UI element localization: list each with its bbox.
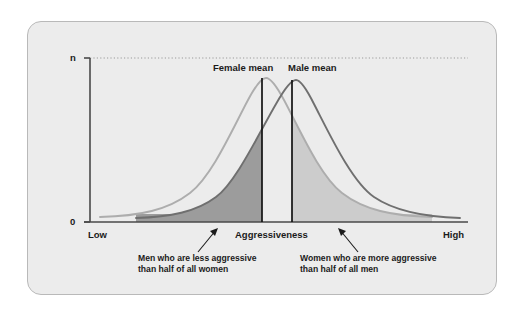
right-caption-line1: Women who are more aggressive (300, 253, 436, 265)
distribution-chart (0, 0, 526, 318)
y-axis-top-label: n (70, 52, 76, 63)
left-annotation-arrow-head (210, 228, 218, 236)
right-annotation-arrow-head (338, 228, 346, 236)
female-mean-label: Female mean (213, 62, 273, 73)
male-baseline-band (136, 214, 262, 222)
female-curve-fill (100, 78, 432, 222)
x-axis-max-label: High (443, 229, 464, 240)
left-caption-line1: Men who are less aggressive (138, 253, 256, 265)
x-axis-min-label: Low (88, 229, 107, 240)
male-mean-label: Male mean (288, 62, 337, 73)
left-caption-line2: than half of all women (138, 264, 228, 276)
female-curve-line (100, 78, 432, 217)
figure-root: n 0 Female mean Male mean Low Aggressive… (0, 0, 526, 318)
right-caption-line2: than half of all men (300, 264, 378, 276)
y-axis-zero-label: 0 (70, 216, 75, 227)
x-axis-label: Aggressiveness (235, 229, 308, 240)
